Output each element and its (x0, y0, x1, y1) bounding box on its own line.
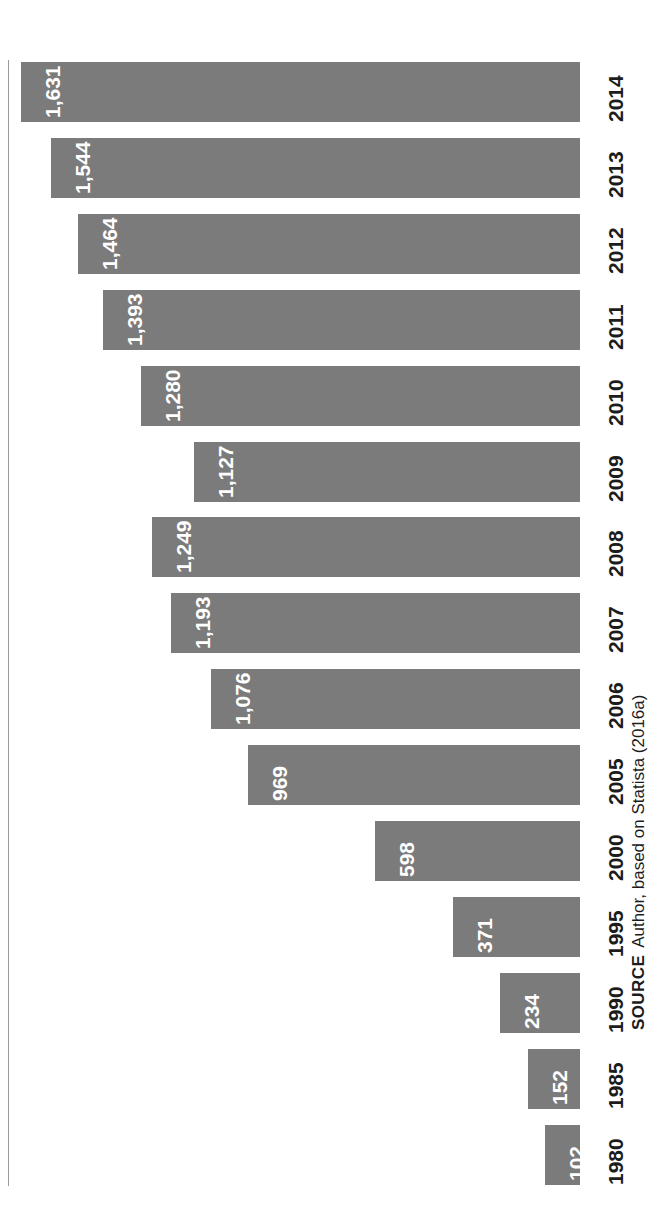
bar-row: 1,2802010 (0, 366, 667, 426)
category-label-2014: 2014 (586, 62, 646, 122)
bar: 1,076 (211, 669, 580, 729)
category-label-2012: 2012 (586, 214, 646, 274)
bar-row: 9692005 (0, 745, 667, 805)
bar-row: 1521985 (0, 1049, 667, 1109)
bar-row: 1021980 (0, 1125, 667, 1185)
category-label-2010: 2010 (586, 366, 646, 426)
bar-value-label: 1,076 (213, 643, 273, 729)
bar: 102 (545, 1125, 580, 1185)
category-label-1980: 1980 (586, 1125, 646, 1185)
bar: 371 (453, 897, 580, 957)
category-label-2007: 2007 (586, 593, 646, 653)
bar-value-label: 1,544 (53, 112, 113, 198)
bar-row: 1,4642012 (0, 214, 667, 274)
source-keyword: SOURCE (629, 955, 649, 1030)
bar-value-label: 598 (377, 821, 437, 881)
bar: 969 (248, 745, 580, 805)
bar-row: 2341990 (0, 973, 667, 1033)
bar-value-label: 1,249 (154, 491, 214, 577)
bar-row: 5982000 (0, 821, 667, 881)
bar-value-label: 1,631 (23, 36, 83, 122)
bar-row: 1,1932007 (0, 593, 667, 653)
bar-value-label: 1,393 (105, 264, 165, 350)
bar-value-label: 1,127 (196, 416, 256, 502)
bar-row: 1,3932011 (0, 290, 667, 350)
category-label-2013: 2013 (586, 138, 646, 198)
bar-row: 1,1272009 (0, 442, 667, 502)
category-label-2011: 2011 (586, 290, 646, 350)
category-label-2008: 2008 (586, 517, 646, 577)
category-label-1985: 1985 (586, 1049, 646, 1109)
category-label-2009: 2009 (586, 442, 646, 502)
bar-value-label: 1,193 (173, 567, 233, 653)
bar-value-label: 371 (455, 897, 515, 957)
bar-value-label: 234 (502, 973, 562, 1033)
bar-row: 1,0762006 (0, 669, 667, 729)
bar-value-label: 1,280 (143, 340, 203, 426)
bar-chart: 1,63120141,54420131,46420121,39320111,28… (0, 0, 667, 1230)
source-text: Author, based on Statista (2016a) (629, 695, 649, 948)
source-note: SOURCE Author, based on Statista (2016a) (624, 650, 654, 1030)
bar-value-label: 1,464 (80, 188, 140, 274)
bar-value-label: 152 (530, 1049, 590, 1109)
bar-row: 1,2492008 (0, 517, 667, 577)
bar-row: 3711995 (0, 897, 667, 957)
bar: 234 (500, 973, 580, 1033)
bar-value-label: 969 (250, 745, 310, 805)
bar: 152 (528, 1049, 580, 1109)
bar: 598 (375, 821, 580, 881)
bar: 1,127 (194, 442, 580, 502)
figure-page: 1,63120141,54420131,46420121,39320111,28… (0, 0, 667, 1230)
